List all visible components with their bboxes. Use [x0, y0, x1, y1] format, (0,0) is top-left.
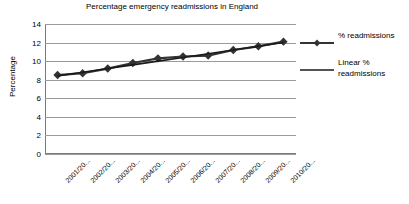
legend-entry[interactable]: Linear % readmissions — [300, 57, 408, 79]
y-axis-tick-label: 14 — [32, 20, 41, 29]
legend-entry[interactable]: % readmissions — [300, 30, 408, 41]
series-line — [58, 42, 284, 75]
data-point-marker — [279, 37, 287, 45]
y-axis-tick-label: 12 — [32, 38, 41, 47]
y-axis-tick-label: 4 — [37, 112, 41, 121]
y-axis-tick-label: 0 — [37, 150, 41, 159]
legend-line-diamond-icon — [300, 34, 334, 44]
legend-label: Linear % readmissions — [338, 57, 408, 79]
x-axis-tick-label: 2008/20... — [239, 157, 266, 184]
x-axis-tick-label: 2004/20... — [139, 157, 166, 184]
y-axis-tick-label: 2 — [37, 131, 41, 140]
x-axis-tick-label: 2007/20... — [214, 157, 241, 184]
x-axis-tick-label: 2009/20... — [264, 157, 291, 184]
chart-title: Percentage emergency readmissions in Eng… — [48, 2, 296, 11]
y-axis-tick-label: 10 — [32, 57, 41, 66]
legend-line-icon — [300, 61, 334, 71]
y-axis-title: Percentage — [8, 47, 17, 107]
legend-label: % readmissions — [338, 30, 408, 41]
x-axis-tick-label: 2001/20... — [64, 157, 91, 184]
x-axis-tick-label: 2003/20... — [114, 157, 141, 184]
series-line — [58, 43, 284, 76]
x-axis-tick-label: 2010/20... — [290, 157, 317, 184]
x-axis-tick-label: 2005/20... — [164, 157, 191, 184]
chart-container: Percentage emergency readmissions in Eng… — [0, 0, 409, 204]
series-layer — [45, 24, 296, 154]
plot-area: 02468101214 2001/20...2002/20...2003/20.… — [45, 24, 296, 154]
chart-legend: % readmissions Linear % readmissions — [300, 30, 408, 95]
x-axis-tick-label: 2002/20... — [89, 157, 116, 184]
x-axis-tick-label: 2006/20... — [189, 157, 216, 184]
y-axis-tick-label: 6 — [37, 94, 41, 103]
gridline — [45, 154, 296, 155]
y-axis-tick-label: 8 — [37, 75, 41, 84]
